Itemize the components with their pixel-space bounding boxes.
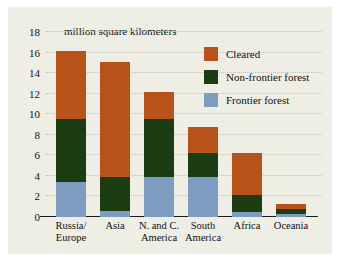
legend-swatch xyxy=(204,70,218,84)
bar-segment xyxy=(232,153,262,195)
gridline xyxy=(46,31,322,32)
bar-segment xyxy=(144,92,174,120)
legend-item: Non-frontier forest xyxy=(204,70,309,84)
bar-segment xyxy=(56,182,86,217)
bar-segment xyxy=(232,195,262,211)
bar-segment xyxy=(188,153,218,177)
bar-segment xyxy=(100,211,130,217)
y-tick-label: 4 xyxy=(35,170,41,181)
y-tick-label: 14 xyxy=(29,68,40,79)
bar-segment xyxy=(144,177,174,217)
legend-item: Cleared xyxy=(204,47,309,61)
gridline xyxy=(46,195,322,196)
y-tick-label: 18 xyxy=(29,27,40,38)
gridline xyxy=(46,134,322,135)
bar-segment xyxy=(56,51,86,120)
legend-label: Non-frontier forest xyxy=(226,71,309,83)
legend-swatch xyxy=(204,47,218,61)
y-tick-label: 6 xyxy=(35,150,41,161)
bar-segment xyxy=(276,214,306,217)
bar-segment xyxy=(276,204,306,209)
bar-segment xyxy=(232,212,262,217)
gridline xyxy=(46,154,322,155)
gridline xyxy=(46,175,322,176)
y-tick-label: 8 xyxy=(35,129,41,140)
chart-legend: ClearedNon-frontier forestFrontier fores… xyxy=(204,47,309,116)
bar-segment xyxy=(188,177,218,217)
x-tick-label-line: Oceania xyxy=(259,220,323,232)
x-tick-label: Oceania xyxy=(259,220,323,243)
x-tick-label-line xyxy=(259,232,323,243)
bar-segment xyxy=(276,209,306,214)
bar-segment xyxy=(188,127,218,154)
bar-segment xyxy=(100,177,130,211)
legend-label: Cleared xyxy=(226,48,260,60)
bar-segment xyxy=(100,62,130,177)
bar-segment xyxy=(56,119,86,182)
bar-segment xyxy=(144,119,174,177)
chart-figure: million square kilometers 02468101214161… xyxy=(8,7,332,254)
legend-swatch xyxy=(204,93,218,107)
y-tick-label: 12 xyxy=(29,88,40,99)
legend-item: Frontier forest xyxy=(204,93,309,107)
y-tick-label: 10 xyxy=(29,109,40,120)
y-tick-label: 16 xyxy=(29,47,40,58)
legend-label: Frontier forest xyxy=(226,94,289,106)
y-tick-label: 2 xyxy=(35,191,41,202)
